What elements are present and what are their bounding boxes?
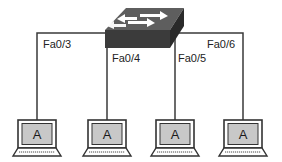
port-label-fa0-5: Fa0/5 bbox=[178, 52, 206, 64]
network-diagram: Fa0/3 Fa0/4 Fa0/5 Fa0/6 AAAA bbox=[0, 0, 282, 162]
host-label: A bbox=[239, 127, 248, 142]
laptops: AAAA bbox=[13, 120, 267, 156]
port-label-fa0-6: Fa0/6 bbox=[207, 38, 235, 50]
laptop-icon: A bbox=[219, 120, 267, 156]
switch-front bbox=[105, 30, 170, 48]
host-label: A bbox=[171, 127, 180, 142]
port-label-fa0-3: Fa0/3 bbox=[43, 38, 71, 50]
laptop-icon: A bbox=[83, 120, 131, 156]
host-label: A bbox=[103, 127, 112, 142]
laptop-icon: A bbox=[13, 120, 61, 156]
laptop-icon: A bbox=[151, 120, 199, 156]
port-label-fa0-4: Fa0/4 bbox=[112, 52, 140, 64]
host-label: A bbox=[33, 127, 42, 142]
switch-icon bbox=[105, 8, 184, 48]
